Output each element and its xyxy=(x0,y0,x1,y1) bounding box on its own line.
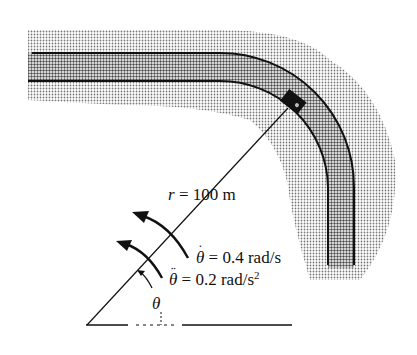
angular-velocity-arrow xyxy=(143,216,188,258)
radius-line xyxy=(87,108,288,325)
road-diagram xyxy=(0,0,417,355)
diagram-canvas: r = 100 m ˙θ = 0.4 rad/s ¨θ = 0.2 rad/s2… xyxy=(0,0,417,355)
angular-acceleration-label: ¨θ = 0.2 rad/s2 xyxy=(169,270,260,288)
angular-velocity-label: ˙θ = 0.4 rad/s xyxy=(196,249,281,266)
theta-label: θ xyxy=(152,295,160,312)
radius-label: r = 100 m xyxy=(168,186,236,203)
arrowhead-icon xyxy=(132,211,149,223)
